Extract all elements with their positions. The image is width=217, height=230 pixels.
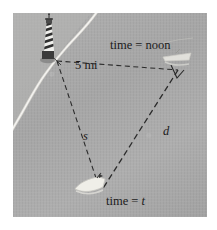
label-side-d: d (163, 125, 169, 138)
label-distance-5mi: 5 mi (75, 59, 98, 72)
photo-canvas: time = noon 5 mi time = t s d (13, 13, 207, 217)
label-time-noon: time = noon (110, 39, 171, 52)
label-side-s: s (83, 130, 88, 143)
segment-s (57, 61, 100, 190)
boat-t-icon (75, 173, 105, 194)
figure-illustration: time = noon 5 mi time = t s d (0, 0, 217, 230)
label-time-t: time = t (106, 195, 145, 208)
label-time-t-text: time = t (106, 194, 145, 208)
label-time-t-variable: t (142, 194, 145, 208)
